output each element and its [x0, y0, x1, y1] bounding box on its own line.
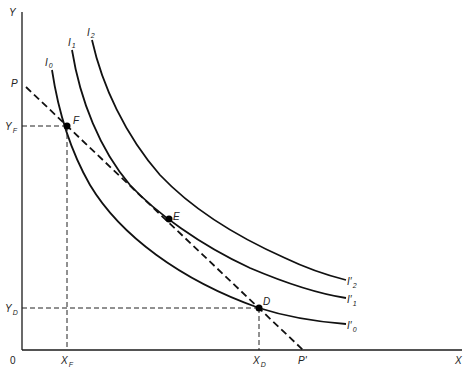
budget-start-label: P — [11, 78, 18, 89]
curve-i2-top-label: I2 — [87, 27, 95, 39]
point-d-label: D — [263, 296, 270, 307]
indifference-curve-i2 — [92, 40, 346, 280]
curve-i0-top-label: I0 — [45, 57, 53, 69]
point-d — [256, 305, 263, 312]
y-axis-label: Y — [9, 7, 17, 18]
point-f-label: F — [73, 115, 80, 126]
y-tick-yf: YF — [5, 121, 18, 134]
curve-i0-end-label: I′0 — [347, 320, 357, 333]
origin-label: 0 — [10, 355, 16, 366]
indifference-curve-i1 — [72, 50, 346, 298]
point-f — [64, 123, 71, 130]
y-tick-yd: YD — [5, 303, 18, 316]
curve-i1-end-label: I′1 — [347, 294, 357, 307]
indifference-curve-i0 — [52, 70, 346, 324]
point-e-label: E — [173, 211, 180, 222]
curve-i1-top-label: I1 — [68, 37, 76, 49]
x-tick-xf: XF — [60, 355, 74, 368]
budget-end-label: P' — [298, 355, 308, 366]
curve-i2-end-label: I′2 — [347, 276, 357, 289]
x-axis-label: X — [454, 355, 462, 366]
point-e — [166, 216, 173, 223]
x-tick-xd: XD — [252, 355, 266, 368]
indifference-curve-diagram: Y X 0 F E D P P' YF YD XF XD I0 I1 I2 — [0, 0, 469, 369]
